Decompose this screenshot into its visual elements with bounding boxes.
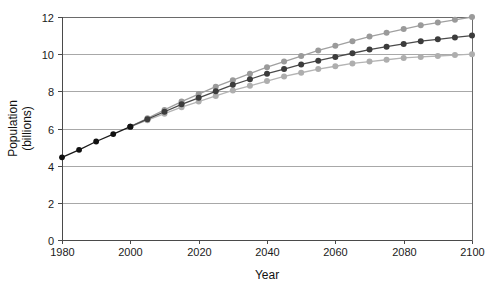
- data-point-low-projection-2055: [315, 66, 321, 72]
- data-point-low-projection-2080: [401, 55, 407, 61]
- data-point-medium-projection-2090: [435, 36, 441, 42]
- data-point-historical-1990: [93, 139, 99, 145]
- data-point-low-projection-2065: [349, 60, 355, 66]
- gridlines-group: [62, 18, 472, 204]
- data-point-high-projection-2090: [435, 20, 441, 26]
- data-point-high-projection-2055: [315, 47, 321, 53]
- x-tick-label-1980: 1980: [50, 246, 74, 258]
- data-point-medium-projection-2025: [213, 88, 219, 94]
- data-point-historical-1980: [59, 154, 65, 160]
- x-tick-label-2100: 2100: [460, 246, 484, 258]
- y-tick-label-4: 4: [48, 161, 54, 173]
- data-point-low-projection-2085: [418, 54, 424, 60]
- y-axis-title-line1: Population: [6, 100, 20, 157]
- data-point-medium-projection-2045: [281, 66, 287, 72]
- data-point-medium-projection-2100: [469, 33, 475, 39]
- data-point-medium-projection-2005: [144, 116, 150, 122]
- data-point-high-projection-2035: [247, 71, 253, 77]
- data-point-medium-projection-2060: [332, 54, 338, 60]
- plot-frame-group: [62, 17, 473, 241]
- x-tick-label-2060: 2060: [323, 246, 347, 258]
- y-tick-label-2: 2: [48, 198, 54, 210]
- data-point-medium-projection-2070: [367, 47, 373, 53]
- data-point-medium-projection-2040: [264, 71, 270, 77]
- data-point-medium-projection-2055: [315, 58, 321, 64]
- data-point-medium-projection-2010: [162, 109, 168, 115]
- y-tick-label-12: 12: [42, 12, 54, 24]
- data-point-high-projection-2075: [384, 30, 390, 36]
- data-point-high-projection-2085: [418, 22, 424, 28]
- data-point-high-projection-2095: [452, 17, 458, 23]
- data-point-low-projection-2045: [281, 73, 287, 79]
- data-point-medium-projection-2080: [401, 41, 407, 47]
- data-point-low-projection-2075: [384, 57, 390, 63]
- data-point-low-projection-2100: [469, 51, 475, 57]
- x-tick-labels-group: 1980200020202040206020802100: [50, 246, 484, 258]
- data-point-low-projection-2060: [332, 63, 338, 69]
- data-point-low-projection-2035: [247, 83, 253, 89]
- data-point-medium-projection-2095: [452, 34, 458, 40]
- data-point-low-projection-2095: [452, 52, 458, 58]
- data-point-medium-projection-2085: [418, 38, 424, 44]
- series-medium-projection: [127, 33, 475, 130]
- data-point-historical-1985: [76, 147, 82, 153]
- x-axis-title: Year: [255, 268, 279, 282]
- x-tick-label-2020: 2020: [187, 246, 211, 258]
- data-point-medium-projection-2050: [298, 61, 304, 67]
- data-point-medium-projection-2075: [384, 44, 390, 50]
- y-axis-title-line2: (billions): [20, 106, 34, 151]
- chart-canvas: 024681012 1980200020202040206020802100 Y…: [0, 0, 494, 288]
- y-tick-marks-group: [58, 18, 62, 241]
- y-tick-label-10: 10: [42, 49, 54, 61]
- data-point-medium-projection-2030: [230, 82, 236, 88]
- data-point-medium-projection-2020: [196, 95, 202, 101]
- data-point-high-projection-2040: [264, 64, 270, 70]
- data-point-medium-projection-2065: [349, 50, 355, 56]
- data-point-high-projection-2070: [367, 34, 373, 40]
- data-point-high-projection-2060: [332, 43, 338, 49]
- data-point-historical-2000: [127, 124, 133, 130]
- data-point-low-projection-2070: [367, 59, 373, 65]
- x-tick-label-2080: 2080: [392, 246, 416, 258]
- data-point-high-projection-2100: [469, 14, 475, 20]
- y-tick-labels-group: 024681012: [42, 12, 54, 247]
- data-point-low-projection-2030: [230, 87, 236, 93]
- data-point-historical-1995: [110, 131, 116, 137]
- x-tick-label-2040: 2040: [255, 246, 279, 258]
- population-projection-chart: 024681012 1980200020202040206020802100 Y…: [0, 0, 494, 288]
- data-point-high-projection-2050: [298, 53, 304, 59]
- data-point-high-projection-2065: [349, 38, 355, 44]
- data-point-medium-projection-2035: [247, 76, 253, 82]
- y-tick-label-8: 8: [48, 86, 54, 98]
- data-point-low-projection-2050: [298, 70, 304, 76]
- data-series-group: [59, 14, 475, 160]
- data-point-high-projection-2080: [401, 26, 407, 32]
- x-tick-label-2000: 2000: [118, 246, 142, 258]
- data-point-medium-projection-2015: [179, 101, 185, 107]
- data-point-low-projection-2040: [264, 78, 270, 84]
- y-tick-label-6: 6: [48, 124, 54, 136]
- data-point-high-projection-2045: [281, 59, 287, 65]
- series-line-medium-projection: [130, 36, 472, 127]
- data-point-low-projection-2090: [435, 53, 441, 59]
- y-tick-label-0: 0: [48, 235, 54, 247]
